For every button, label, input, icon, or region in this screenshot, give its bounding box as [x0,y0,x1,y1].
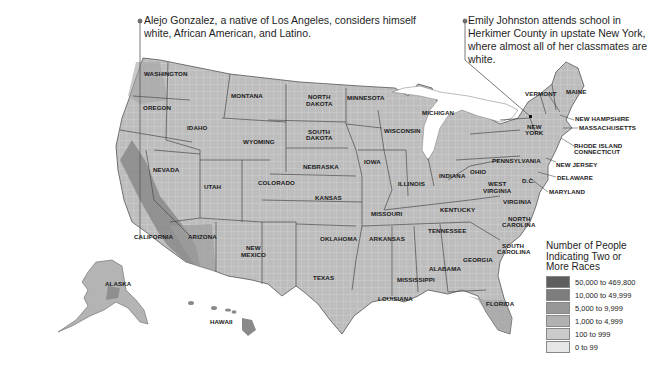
alaska [58,260,148,332]
label-south-carolina-2: CAROLINA [497,248,531,255]
label-dc: D.C. [522,177,535,184]
label-maine: MAINE [566,88,586,95]
legend-swatch [546,315,570,327]
label-oklahoma: OKLAHOMA [320,235,358,242]
callout-right-text: Emily Johnston attends school in Herkime… [468,14,647,65]
legend-swatch [546,302,570,314]
label-south-dakota-2: DAKOTA [306,134,333,141]
label-nevada: NEVADA [153,166,180,173]
legend: Number of People Indicating Two or More … [546,241,646,354]
legend-label: 5,000 to 9,999 [575,304,623,313]
label-florida: FLORIDA [486,300,515,307]
label-pennsylvania: PENNSYLVANIA [492,157,541,164]
callout-left-text: Alejo Gonzalez, a native of Los Angeles,… [144,14,416,39]
label-illinois: ILLINOIS [398,180,425,187]
legend-label: 1,000 to 4,999 [575,317,623,326]
label-missouri: MISSOURI [371,210,403,217]
legend-item: 100 to 999 [546,328,646,341]
label-indiana: INDIANA [439,172,466,179]
label-texas: TEXAS [313,274,334,281]
legend-label: 50,000 to 469,800 [575,278,635,287]
label-ohio: OHIO [470,168,486,175]
label-north-dakota-2: DAKOTA [306,100,333,107]
legend-swatch [546,341,570,353]
label-virginia: VIRGINIA [503,198,532,205]
label-delaware: DELAWARE [557,174,593,181]
label-iowa: IOWA [364,158,381,165]
label-kentucky: KENTUCKY [440,206,476,213]
label-maryland: MARYLAND [549,188,585,195]
label-arizona: ARIZONA [188,233,217,240]
label-minnesota: MINNESOTA [347,94,385,101]
label-west-virginia-2: VIRGINIA [483,187,512,194]
label-north-dakota-1: NORTH [308,93,331,100]
label-massachusetts: MASSACHUSETTS [579,124,636,131]
label-alaska: ALASKA [105,280,132,287]
label-arkansas: ARKANSAS [369,235,405,242]
legend-item: 50,000 to 469,800 [546,276,646,289]
label-montana: MONTANA [231,92,263,99]
label-idaho: IDAHO [187,124,208,131]
label-new-hampshire: NEW HAMPSHIRE [575,115,630,122]
legend-item: 10,000 to 49,999 [546,289,646,302]
legend-swatch [546,328,570,340]
label-utah: UTAH [204,183,222,190]
label-louisiana: LOUISIANA [378,295,413,302]
label-tennessee: TENNESSEE [428,227,466,234]
label-colorado: COLORADO [258,179,295,186]
label-new-mexico-2: MEXICO [241,251,266,258]
label-kansas: KANSAS [315,194,342,201]
legend-swatch [546,276,570,288]
legend-item: 1,000 to 4,999 [546,315,646,328]
legend-title: Number of People Indicating Two or More … [546,241,646,273]
label-north-carolina-2: CAROLINA [502,221,536,228]
legend-label: 0 to 99 [575,343,598,352]
legend-label: 10,000 to 49,999 [575,291,631,300]
label-california: CALIFORNIA [134,233,174,240]
label-mississippi: MISSISSIPPI [397,276,435,283]
alaska-region [106,286,120,300]
legend-swatch [546,289,570,301]
label-new-jersey: NEW JERSEY [556,161,598,168]
label-west-virginia-1: WEST [488,180,506,187]
label-vermont: VERMONT [525,90,557,97]
label-new-york-2: YORK [525,129,544,136]
legend-label: 100 to 999 [575,330,610,339]
label-oregon: OREGON [143,104,172,111]
label-georgia: GEORGIA [463,256,493,263]
label-wyoming: WYOMING [243,138,275,145]
label-michigan: MICHIGAN [422,109,455,116]
legend-item: 0 to 99 [546,341,646,354]
label-new-mexico-1: NEW [246,244,261,251]
callout-emily-johnston: Emily Johnston attends school in Herkime… [468,14,648,66]
label-wisconsin: WISCONSIN [384,127,421,134]
label-nebraska: NEBRASKA [303,163,339,170]
label-connecticut: CONNECTICUT [574,148,620,155]
label-alabama: ALABAMA [429,265,461,272]
label-hawaii: HAWAII [210,318,233,325]
legend-item: 5,000 to 9,999 [546,302,646,315]
callout-alejo-gonzalez: Alejo Gonzalez, a native of Los Angeles,… [144,14,444,40]
label-washington: WASHINGTON [144,70,188,77]
